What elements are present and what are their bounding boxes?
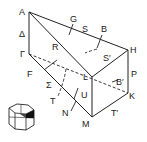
edge-Gamma-M	[29, 54, 92, 117]
label-N: N	[62, 108, 69, 118]
label-G: G	[70, 14, 77, 24]
tick-B	[97, 35, 102, 48]
label-Sigma: Σ	[46, 80, 52, 90]
tick-U	[74, 88, 78, 99]
label-vertex-Gamma: Γ	[20, 49, 25, 59]
label-vertex-K: K	[129, 91, 135, 101]
label-B: B	[101, 24, 107, 34]
label-vertex-L: L	[83, 72, 88, 82]
label-P: P	[131, 69, 137, 79]
label-vertex-H: H	[130, 45, 137, 55]
label-B-prime: B′	[116, 77, 124, 87]
label-R: R	[52, 42, 59, 52]
label-F: F	[27, 69, 33, 79]
label-S-prime: S′	[103, 53, 111, 63]
edge-A-L	[29, 12, 92, 77]
dashed-lines	[29, 49, 128, 96]
label-vertex-M: M	[82, 119, 90, 129]
label-S: S	[82, 24, 88, 34]
edge-M-K	[92, 93, 128, 117]
dashed-B-arc	[85, 49, 97, 53]
brillouin-zone-diagram: A Γ L H K M Δ R S S′ P T′ U G B B′ F Σ T…	[0, 0, 147, 142]
label-Delta: Δ	[19, 29, 25, 39]
label-U: U	[81, 90, 88, 100]
hexagonal-brillouin-zone-icon	[9, 104, 34, 130]
shaded-wedge	[26, 110, 34, 118]
solid-edges	[29, 12, 128, 117]
tick-F	[44, 60, 57, 70]
dashed-Sigma-curve	[58, 69, 66, 96]
edge-A-H	[29, 12, 128, 50]
label-T-prime: T′	[111, 108, 118, 118]
tick-N	[71, 101, 76, 111]
label-vertex-A: A	[19, 7, 25, 17]
dashed-Gamma-K	[29, 54, 128, 93]
tick-G	[69, 24, 73, 35]
label-T: T	[50, 96, 56, 106]
